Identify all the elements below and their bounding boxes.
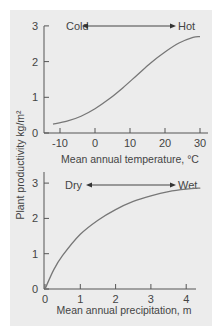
temperature-chart: 0123-100102030Mean annual temperature, °… bbox=[32, 20, 208, 165]
arrow-right-icon bbox=[170, 24, 176, 29]
x-tick-label: -10 bbox=[52, 137, 68, 149]
y-tick-label: 2 bbox=[32, 212, 38, 224]
x-tick-label: 20 bbox=[159, 137, 171, 149]
annotation-right-label: Hot bbox=[178, 20, 195, 32]
annotation-left-label: Dry bbox=[65, 179, 83, 191]
y-tick-label: 0 bbox=[32, 127, 38, 139]
y-tick-label: 3 bbox=[32, 20, 38, 32]
productivity-curve bbox=[53, 37, 200, 124]
x-axis-title: Mean annual temperature, °C bbox=[61, 153, 199, 165]
precipitation-chart: 012301234Mean annual precipitation, mDry… bbox=[32, 172, 200, 316]
arrow-left-icon bbox=[86, 183, 92, 188]
y-tick-label: 0 bbox=[32, 283, 38, 295]
x-tick-label: 0 bbox=[92, 137, 98, 149]
y-tick-label: 3 bbox=[32, 177, 38, 189]
y-tick-label: 1 bbox=[32, 91, 38, 103]
y-tick-label: 1 bbox=[32, 248, 38, 260]
productivity-curve bbox=[45, 188, 200, 289]
x-tick-label: 0 bbox=[42, 293, 48, 305]
y-tick-label: 2 bbox=[32, 56, 38, 68]
figure-svg: Plant productivity kg/m² 0123-100102030M… bbox=[0, 0, 222, 336]
x-axis-title: Mean annual precipitation, m bbox=[57, 304, 192, 316]
x-tick-label: 10 bbox=[124, 137, 136, 149]
arrow-right-icon bbox=[170, 183, 176, 188]
y-axis-title: Plant productivity kg/m² bbox=[14, 110, 26, 220]
x-tick-label: 30 bbox=[194, 137, 206, 149]
